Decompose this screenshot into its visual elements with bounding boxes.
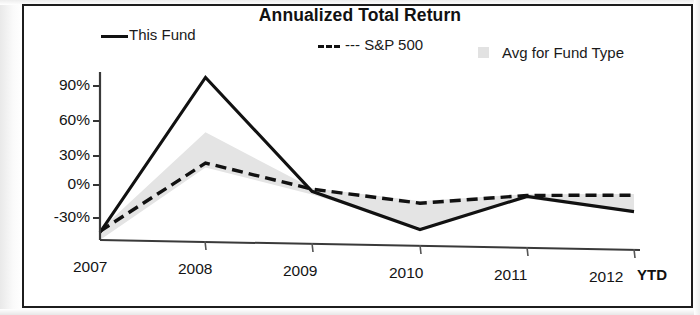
axis-spines: [0, 0, 700, 315]
x-axis-line: [100, 240, 640, 250]
x-axis-tick-2011: [527, 247, 528, 256]
x-axis-tick-2009: [312, 243, 313, 252]
chart-screenshot: Annualized Total Return This Fund --- S&…: [0, 0, 700, 315]
x-axis-tick-2008: [205, 241, 206, 250]
x-axis-tick-2012: [634, 249, 635, 258]
x-axis-tick-2010: [420, 245, 421, 254]
